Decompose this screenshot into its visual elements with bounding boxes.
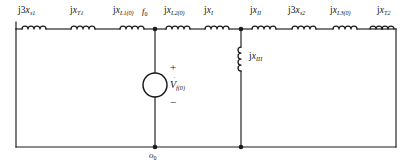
node-dot-o0-bottom <box>153 145 158 150</box>
node-symbol: o <box>149 150 154 160</box>
element-label-xt2: jxT2 <box>377 6 391 16</box>
element-label-xs1: j3xs1 <box>18 6 35 16</box>
inductor-coil-xiii <box>238 47 241 71</box>
node-subscript: 0 <box>154 155 157 161</box>
label-subscript: II <box>257 10 261 16</box>
label-subscript: s1 <box>30 10 35 16</box>
label-subscript: I <box>211 10 213 16</box>
label-subscript: T2 <box>384 10 390 16</box>
inductor-coil-xl10 <box>120 26 144 29</box>
element-label-xt1: jxT1 <box>70 6 84 16</box>
element-label-xl30: jxL3(0) <box>330 6 351 16</box>
label-subscript: s2 <box>300 10 305 16</box>
inductor-coil-xi <box>205 26 229 29</box>
label-subscript: III <box>256 56 262 62</box>
element-label-xi: jxI <box>204 6 213 16</box>
zero-sequence-network-diagram: j3xs1 jxT1 jxL1(0) jxL2(0) jxI jxII j3xs… <box>0 0 412 163</box>
inductor-coil-xs2 <box>292 26 316 29</box>
source-plus-sign: + <box>170 62 176 73</box>
label-subscript: L3(0) <box>337 10 351 16</box>
inductor-coil-xl20 <box>166 26 190 29</box>
element-label-xii: jxII <box>250 6 261 16</box>
element-label-xiii: jxIII <box>249 52 262 62</box>
source-dot-accent: ˙ <box>173 76 175 83</box>
inductor-coil-xt1 <box>71 26 95 29</box>
node-subscript: 0 <box>145 11 148 17</box>
node-dot-shunt-bottom <box>239 145 244 150</box>
inductor-coil-xl30 <box>333 26 357 29</box>
inductor-coil-xs1 <box>22 26 46 29</box>
label-subscript: L2(0) <box>171 10 185 16</box>
node-dot-shunt-top <box>239 27 244 32</box>
node-label-f0: f0 <box>142 7 148 16</box>
node-label-o0: o0 <box>149 151 157 160</box>
element-label-xl10: jxL1(0) <box>113 6 134 16</box>
element-label-xs2: j3xs2 <box>288 6 305 16</box>
node-dot-f0-top <box>153 27 158 32</box>
source-subscript: f(0) <box>176 85 185 91</box>
inductor-coil-xii <box>252 26 276 29</box>
source-minus-sign: − <box>170 97 176 108</box>
label-prefix: j3 <box>288 5 296 15</box>
label-subscript: T1 <box>77 10 83 16</box>
voltage-source-symbol <box>143 73 167 97</box>
element-label-xl20: jxL2(0) <box>164 6 185 16</box>
circuit-schematic-canvas <box>0 0 412 163</box>
label-prefix: j3 <box>18 5 26 15</box>
label-subscript: L1(0) <box>120 10 134 16</box>
source-label-vf0: V˙f(0) <box>170 80 185 90</box>
